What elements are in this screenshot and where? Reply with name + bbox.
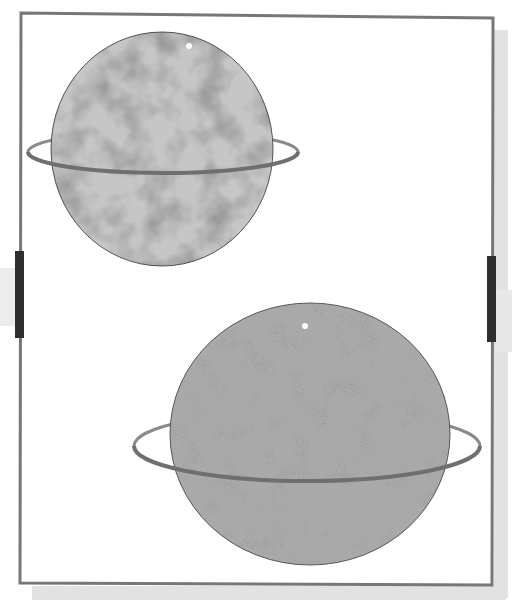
illustration-canvas bbox=[0, 0, 512, 603]
right-handle bbox=[487, 256, 496, 342]
left-handle bbox=[15, 251, 24, 338]
top-highlight-dot bbox=[186, 43, 192, 49]
planets-illustration bbox=[0, 0, 512, 603]
bottom-highlight-dot bbox=[302, 323, 308, 329]
